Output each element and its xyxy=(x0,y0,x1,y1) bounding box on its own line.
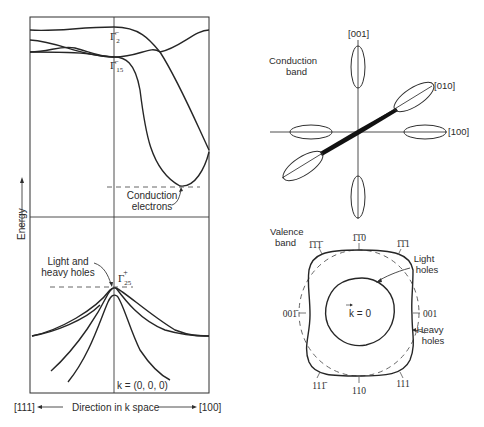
valence-band-title-line2: band xyxy=(275,237,296,248)
direction-100-label: [100] xyxy=(199,402,221,413)
conduction-band-ellipsoids: Conduction band [001] [010] [100] xyxy=(269,28,469,219)
heavy-holes-label-line2: holes xyxy=(422,335,445,346)
direction-bottom-left-label: 111̄ xyxy=(312,381,328,391)
band-structure-diagram: Γ2− Γ15− Conduction electrons Γ25+ Light… xyxy=(0,0,484,427)
light-hole-band-curve xyxy=(51,288,209,371)
light-holes-label-line1: Light xyxy=(414,253,435,264)
direction-top-right-label: 1̄1̄1 xyxy=(396,239,410,249)
k-zero-center-label: k = 0 xyxy=(349,308,371,319)
direction-111-label: [111] xyxy=(14,402,35,413)
left-arrow-icon xyxy=(37,405,42,409)
axis-100-label: [100] xyxy=(448,126,469,137)
right-arrow-icon xyxy=(192,405,197,409)
conduction-band-title-line2: band xyxy=(286,66,307,77)
direction-bottom-label: 110 xyxy=(352,386,366,396)
gamma25-label: Γ25+ xyxy=(118,268,132,287)
energy-arrow-icon xyxy=(20,177,24,183)
tick-bottom-right xyxy=(400,372,403,378)
direction-in-k-space-label: Direction in k space xyxy=(72,402,160,413)
light-holes-arrow xyxy=(378,268,410,281)
arrowhead-icon xyxy=(109,282,113,287)
axis-010-label: [010] xyxy=(434,80,455,91)
direction-top-left-label: 1̄1̄1̄ xyxy=(308,240,324,250)
energy-axis-label: Energy xyxy=(16,208,27,240)
axis-001-label: [001] xyxy=(348,28,369,39)
vector-arrow-icon xyxy=(350,304,353,307)
valence-band-contours: Valence band 1̄1̄0 1̄1̄1̄ 1̄1̄1 001̄ 001… xyxy=(270,226,445,396)
conduction-electrons-label-line1: Conduction xyxy=(127,190,178,201)
k-origin-label: k = (0, 0, 0) xyxy=(117,380,168,391)
valence-band-title-line1: Valence xyxy=(270,226,304,237)
gamma15-label: Γ15− xyxy=(110,57,124,74)
conduction-electrons-label-line2: electrons xyxy=(132,201,173,212)
conduction-band-title-line1: Conduction xyxy=(269,55,317,66)
direction-right-label: 001 xyxy=(423,309,438,319)
light-heavy-holes-label-line1: Light and xyxy=(47,256,88,267)
gamma2-label: Γ2− xyxy=(110,28,120,45)
heavy-holes-label-line1: Heavy xyxy=(417,324,444,335)
light-heavy-holes-label-line2: heavy holes xyxy=(41,267,94,278)
holes-arrow xyxy=(94,263,111,284)
arrowhead-icon xyxy=(179,187,183,192)
direction-top-label: 1̄1̄0 xyxy=(352,233,366,243)
split-off-band-curve xyxy=(68,295,170,382)
energy-band-plot: Γ2− Γ15− Conduction electrons Γ25+ Light… xyxy=(14,17,221,413)
light-holes-label-line2: holes xyxy=(416,264,439,275)
ellipsoid-0-10 xyxy=(279,146,327,186)
direction-left-label: 001̄ xyxy=(283,309,299,319)
gamma15-upper-band-curve xyxy=(30,40,209,150)
arrowhead-icon xyxy=(376,278,382,283)
tick-bottom-left xyxy=(317,372,320,378)
direction-bottom-right-label: 111 xyxy=(396,379,410,389)
